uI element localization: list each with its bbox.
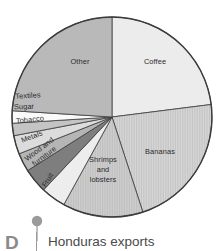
caption-marker-letter: D xyxy=(5,233,19,251)
caption-divider xyxy=(36,232,37,251)
pie-chart: CoffeeBananasShrimpsandlobstersFruitWood… xyxy=(0,0,222,222)
slice-label-coffee: Coffee xyxy=(144,57,166,66)
caption-title: Honduras exports xyxy=(48,234,155,250)
pie-slice-coffee xyxy=(112,17,211,117)
map-pin-icon xyxy=(30,215,44,241)
pie-chart-svg: CoffeeBananasShrimpsandlobstersFruitWood… xyxy=(0,0,222,222)
slice-label-bananas: Bananas xyxy=(145,147,175,156)
slice-label-textiles: Textiles xyxy=(15,90,41,100)
chart-caption: D Honduras exports xyxy=(0,213,222,251)
slice-label-sugar: Sugar xyxy=(14,102,35,112)
slice-label-other: Other xyxy=(71,57,90,66)
